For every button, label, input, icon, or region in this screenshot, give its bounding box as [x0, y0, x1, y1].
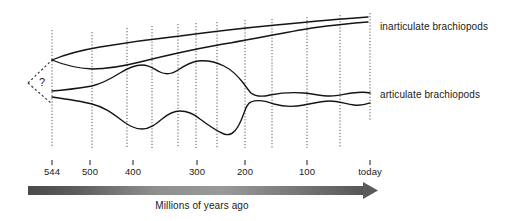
arrow-shaft — [28, 186, 365, 195]
axis-tick-label-today: today — [358, 166, 382, 177]
axis-tick-label-200: 200 — [237, 166, 253, 177]
axis-tick-label-300: 300 — [189, 166, 205, 177]
articulate-lower-curve — [52, 97, 370, 135]
brachiopod-diversity-diagram: 544 500 400 300 200 100 today ? inarticu… — [0, 0, 512, 221]
axis-tickmarks — [52, 160, 370, 165]
series-label-inarticulate: inarticulate brachiopods — [380, 21, 488, 32]
articulate-brachiopods-band — [52, 61, 370, 135]
axis-tick-label-500: 500 — [82, 166, 98, 177]
time-direction-arrow — [28, 182, 378, 199]
arrow-head — [363, 182, 378, 199]
diversity-spindle-plot — [0, 0, 512, 221]
inarticulate-upper-curve — [52, 17, 368, 60]
axis-tick-label-544: 544 — [44, 166, 60, 177]
period-gridlines — [52, 13, 370, 148]
uncertainty-question-mark: ? — [39, 76, 45, 88]
articulate-upper-curve — [52, 61, 370, 97]
axis-tick-label-100: 100 — [299, 166, 315, 177]
series-label-articulate: articulate brachiopods — [380, 89, 480, 100]
axis-caption: Millions of years ago — [155, 200, 248, 211]
axis-tick-label-400: 400 — [125, 166, 141, 177]
